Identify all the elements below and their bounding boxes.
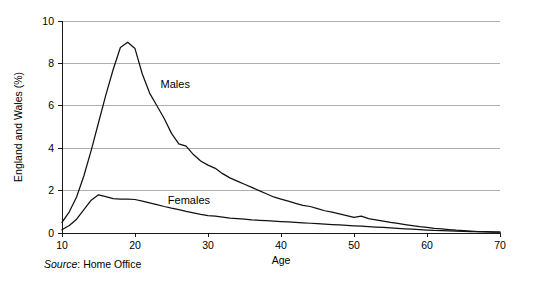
tick-labels-group: 024681010203040506070 bbox=[42, 15, 506, 251]
axes-group bbox=[62, 21, 500, 233]
source-note: Source: Home Office bbox=[44, 258, 141, 270]
x-tick-label-70: 70 bbox=[494, 239, 506, 251]
y-tick-label-8: 8 bbox=[48, 57, 54, 69]
x-axis-title: Age bbox=[272, 254, 291, 266]
source-value: Home Office bbox=[83, 258, 141, 270]
x-tick-label-40: 40 bbox=[275, 239, 287, 251]
source-prefix: Source bbox=[44, 258, 77, 270]
x-tick-label-60: 60 bbox=[421, 239, 433, 251]
chart-container: 024681010203040506070 MalesFemales AgeEn… bbox=[0, 0, 536, 284]
x-tick-label-10: 10 bbox=[56, 239, 68, 251]
series-lines-group bbox=[62, 42, 500, 232]
line-chart: 024681010203040506070 MalesFemales AgeEn… bbox=[0, 0, 536, 284]
y-tick-label-4: 4 bbox=[48, 142, 54, 154]
y-axis-title: England and Wales (%) bbox=[12, 72, 24, 182]
series-label-females: Females bbox=[168, 194, 211, 206]
x-tick-label-30: 30 bbox=[202, 239, 214, 251]
series-label-males: Males bbox=[161, 78, 191, 90]
y-tick-label-0: 0 bbox=[48, 227, 54, 239]
x-tick-label-50: 50 bbox=[348, 239, 360, 251]
y-tick-label-2: 2 bbox=[48, 184, 54, 196]
y-tick-label-10: 10 bbox=[42, 15, 54, 27]
x-tick-label-20: 20 bbox=[129, 239, 141, 251]
series-line-males bbox=[62, 42, 500, 232]
series-line-females bbox=[62, 195, 500, 232]
y-tick-label-6: 6 bbox=[48, 99, 54, 111]
gridlines-group bbox=[62, 21, 500, 191]
ticks-group bbox=[58, 21, 500, 237]
series-annotations-group: MalesFemales bbox=[161, 78, 211, 207]
